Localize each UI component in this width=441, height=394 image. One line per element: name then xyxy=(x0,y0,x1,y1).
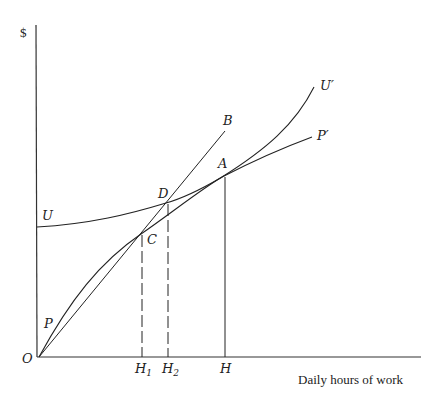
y-axis xyxy=(36,25,37,357)
y-axis-label: $ xyxy=(20,25,27,40)
label-b: B xyxy=(222,113,233,128)
label-p: P xyxy=(43,316,53,331)
utility-curve xyxy=(37,87,314,227)
label-p-prime: P′ xyxy=(316,128,329,143)
label-u: U xyxy=(42,208,54,223)
label-u-prime: U′ xyxy=(320,78,334,93)
x-axis-label: Daily hours of work xyxy=(298,372,404,387)
ray-ob xyxy=(39,131,225,357)
production-curve xyxy=(39,137,312,357)
tick-h: H xyxy=(219,361,232,376)
diagram-canvas: $ Daily hours of work O P P′ U U′ B A C … xyxy=(0,0,441,394)
label-a: A xyxy=(217,156,227,171)
tick-h2: H2 xyxy=(161,361,179,378)
origin-label: O xyxy=(22,351,33,366)
label-d: D xyxy=(157,186,169,201)
tick-h1: H1 xyxy=(134,361,152,378)
label-c: C xyxy=(147,232,157,247)
